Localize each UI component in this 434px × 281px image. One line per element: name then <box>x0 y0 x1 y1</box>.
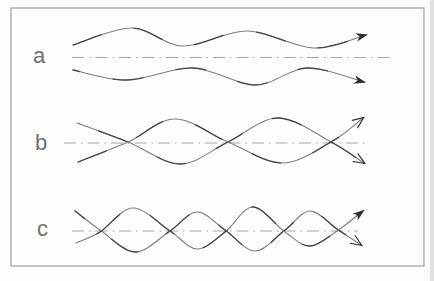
wave-curve-shade-c-2 <box>76 207 363 249</box>
arrowhead-filled-icon <box>353 76 367 87</box>
wave-curve-shade-b-1 <box>77 118 364 164</box>
row-label-c: c <box>37 218 48 240</box>
wave-curve-a-1 <box>73 28 366 48</box>
arrowhead-filled-icon <box>355 30 369 41</box>
row-label-a: a <box>33 45 45 67</box>
wave-curve-a-2 <box>73 68 364 85</box>
wave-curve-shade-a-1 <box>73 28 366 48</box>
wave-curve-b-2 <box>78 118 363 163</box>
wave-curve-shade-b-2 <box>78 118 363 163</box>
waves-diagram-svg <box>0 0 434 281</box>
row-label-b: b <box>35 132 47 154</box>
wave-curve-b-1 <box>77 118 364 164</box>
figure-frame: a b c <box>0 0 434 281</box>
wave-curve-shade-a-2 <box>73 68 364 85</box>
page-edge-shadow <box>430 0 434 281</box>
